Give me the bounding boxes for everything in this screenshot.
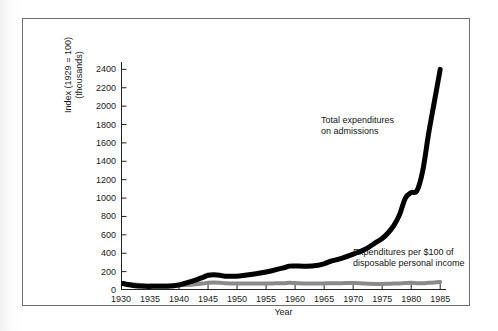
annotation-total-line1: Total expenditures <box>321 115 394 126</box>
y-axis-ticks <box>122 69 127 290</box>
annotation-total-expenditures: Total expenditures on admissions <box>321 115 394 137</box>
x-tick-labels: 1930193519401945195019551960196519701975… <box>121 294 446 306</box>
y-tick-label: 200 <box>82 268 116 277</box>
x-axis-title: Year <box>121 307 446 317</box>
y-tick-labels: 0200400600800100012001400160018002000220… <box>82 62 116 290</box>
annotation-per100-line2: disposable personal income <box>353 258 465 269</box>
y-tick-label: 1200 <box>82 176 116 185</box>
y-tick-label: 600 <box>82 231 116 240</box>
y-tick-label: 1800 <box>82 121 116 130</box>
annotation-per100-line1: Expenditures per $100 of <box>353 247 465 258</box>
y-tick-label: 1000 <box>82 194 116 203</box>
annotation-total-line2: on admissions <box>321 126 394 137</box>
figure-frame: Index (1929 = 100) (thousands) 020040060… <box>22 18 470 306</box>
y-tick-label: 2200 <box>82 84 116 93</box>
x-tick-label: 1985 <box>423 294 457 304</box>
y-tick-label: 2000 <box>82 102 116 111</box>
y-tick-label: 800 <box>82 212 116 221</box>
y-tick-label: 1600 <box>82 139 116 148</box>
y-tick-label: 400 <box>82 249 116 258</box>
y-tick-label: 2400 <box>82 65 116 74</box>
y-tick-label: 1400 <box>82 157 116 166</box>
y-axis-title-line1: Index (1929 = 100) <box>63 37 74 113</box>
annotation-expenditures-per-100: Expenditures per $100 of disposable pers… <box>353 247 465 269</box>
